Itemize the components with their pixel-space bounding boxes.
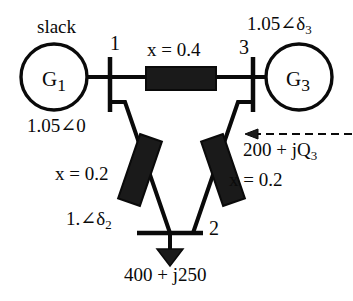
generator-g3-name: G xyxy=(286,67,301,91)
bus-3-injection-label: 200 + jQ3 xyxy=(243,140,317,163)
one-line-diagram: slack G1 G3 1 3 2 x = 0.4 x = 0.2 x = 0.… xyxy=(0,0,353,301)
bus-3-voltage-main: 1.05∠δ xyxy=(247,13,305,34)
slack-bus-label: slack xyxy=(37,17,76,36)
generator-g1-subscript: 1 xyxy=(57,75,66,95)
line-1-2-reactance-label: x = 0.2 xyxy=(55,164,108,183)
injection-arrowhead-bus3 xyxy=(245,129,258,139)
bus-1-number-label: 1 xyxy=(110,33,120,53)
generator-g1-name: G xyxy=(42,67,57,91)
bus-3-injection-subscript: 3 xyxy=(311,148,317,163)
generator-g3-subscript: 3 xyxy=(301,75,310,95)
bus-2-voltage-label: 1.∠δ2 xyxy=(66,209,112,232)
line-1-3-reactance-label: x = 0.4 xyxy=(147,40,200,59)
bus-2-number-label: 2 xyxy=(209,218,219,238)
bus-2-voltage-subscript: 2 xyxy=(105,217,111,232)
bus-2-voltage-main: 1.∠δ xyxy=(66,208,105,229)
bus-3-voltage-label: 1.05∠δ3 xyxy=(247,14,312,37)
bus-1-voltage-label: 1.05∠0 xyxy=(27,116,86,135)
bus-3-number-label: 3 xyxy=(239,37,249,57)
generator-g3-label: G3 xyxy=(286,67,310,96)
reactance-box-line-1-3 xyxy=(146,67,216,90)
line-3-2-reactance-label: x = 0.2 xyxy=(229,170,282,189)
bus-3-injection-main: 200 + jQ xyxy=(243,139,311,160)
bus-3-voltage-subscript: 3 xyxy=(305,22,311,37)
generator-g1-label: G1 xyxy=(42,67,66,96)
bus-2-load-label: 400 + j250 xyxy=(124,265,207,284)
